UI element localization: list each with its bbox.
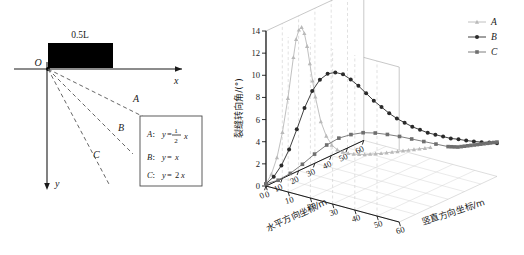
data-point: [349, 133, 353, 137]
y-axis-arrow: [44, 183, 50, 190]
data-point: [326, 72, 330, 76]
data-point: [372, 99, 376, 103]
eq-a-numerator: 1: [174, 127, 178, 135]
data-point: [459, 145, 463, 149]
y-tick-label: 10: [284, 194, 295, 206]
data-point: [449, 136, 453, 140]
data-point: [373, 131, 377, 135]
legend-label-B: B: [491, 32, 497, 42]
ray-c: [48, 69, 110, 186]
data-point: [398, 135, 402, 139]
z-tick-label: 0: [256, 181, 260, 191]
z-tick-label: 2: [256, 159, 260, 169]
data-point: [446, 145, 450, 149]
data-point: [479, 142, 483, 146]
eq-a-var: x: [183, 131, 188, 141]
data-point: [287, 148, 291, 152]
data-point: [457, 137, 461, 141]
z-axis-title: 裂缝转向角/(°): [233, 78, 244, 138]
legend-label-A: A: [490, 17, 497, 27]
data-point: [489, 141, 493, 145]
y-axis-label: y: [54, 178, 60, 189]
data-point: [428, 145, 432, 149]
data-point: [341, 72, 345, 76]
data-point: [410, 125, 414, 129]
data-point: [386, 133, 390, 137]
x-axis-arrow: [175, 66, 182, 72]
data-point: [303, 106, 307, 110]
data-point: [418, 128, 422, 132]
data-point: [264, 182, 268, 186]
data-point: [475, 50, 479, 54]
data-point: [272, 175, 276, 179]
data-point: [279, 163, 283, 167]
eq-b-equals: =: [167, 152, 172, 162]
crack-path-schematic: 0.5L O A B C x y A ： y = 1 2 x: [0, 0, 262, 255]
data-point: [492, 141, 496, 145]
z-tick-label: 6: [256, 115, 261, 125]
data-point: [310, 89, 314, 93]
origin-label: O: [34, 57, 41, 68]
eq-b-var: x: [174, 152, 179, 162]
x-axis-label: x: [173, 75, 179, 86]
ray-label-b: B: [118, 122, 124, 133]
data-point: [380, 105, 384, 109]
eq-a-equals: =: [167, 129, 172, 139]
data-point: [288, 172, 292, 176]
eq-c-var: x: [180, 170, 185, 180]
eq-b-sep: ：: [152, 154, 159, 162]
data-point: [450, 145, 454, 149]
plot3d-svg: 02468101214裂缝转向角/(°)0102030405060水平方向坐标/…: [232, 0, 524, 255]
data-point: [318, 78, 322, 82]
data-point: [482, 142, 486, 146]
data-point: [441, 135, 445, 139]
data-point: [472, 139, 476, 143]
data-point: [301, 162, 305, 166]
data-point: [485, 142, 489, 146]
data-point: [434, 142, 438, 146]
ray-label-c: C: [93, 149, 100, 160]
data-point: [337, 136, 341, 140]
data-point: [387, 111, 391, 115]
eq-a-sep: ：: [152, 131, 159, 139]
data-point: [476, 143, 480, 147]
data-point: [295, 127, 299, 131]
data-point: [475, 35, 479, 39]
data-point: [395, 117, 399, 121]
data-point: [333, 70, 337, 74]
data-point: [325, 143, 329, 147]
figure-container: 0.5L O A B C x y A ： y = 1 2 x: [0, 0, 524, 255]
eq-c-sep: ：: [152, 172, 159, 180]
x-axis-title: 水平方向坐标/m: [264, 196, 328, 234]
legend-label-C: C: [491, 47, 498, 57]
eq-c-equals: =: [167, 170, 172, 180]
data-point: [276, 178, 280, 182]
eq-a-denominator: 2: [174, 137, 178, 145]
z-tick-label: 10: [251, 70, 260, 80]
data-point: [356, 84, 360, 88]
data-point: [364, 91, 368, 95]
data-point: [349, 78, 353, 82]
z-tick-label: 8: [256, 92, 260, 102]
eq-c-coefficient: 2: [175, 170, 179, 180]
schematic-svg: 0.5L O A B C x y A ： y = 1 2 x: [0, 0, 262, 255]
data-point: [464, 139, 468, 143]
y-tick-label: 30: [328, 206, 339, 218]
data-point: [495, 140, 499, 144]
data-point: [469, 144, 473, 148]
z-tick-label: 12: [251, 48, 260, 58]
y-tick-label: 60: [395, 224, 406, 236]
data-point: [463, 144, 467, 148]
data-point: [456, 145, 460, 149]
y-tick-label: 40: [350, 212, 361, 224]
eq-b-lhs: y: [161, 152, 166, 162]
block-label: 0.5L: [71, 30, 89, 40]
eq-c-lhs: y: [161, 170, 166, 180]
eq-a-lhs: y: [161, 129, 166, 139]
data-point: [313, 152, 317, 156]
data-point: [403, 121, 407, 125]
ray-label-a: A: [132, 93, 140, 104]
data-point: [410, 137, 414, 141]
data-point: [453, 145, 457, 149]
data-point: [466, 144, 470, 148]
